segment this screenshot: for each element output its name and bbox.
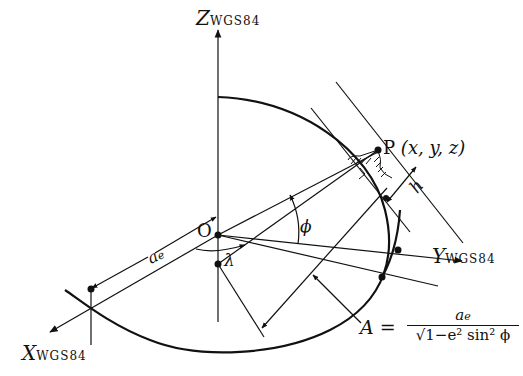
h-arrow-down [387, 190, 397, 202]
tangent-guide [311, 108, 410, 232]
x-axis-label: XWGS84 [22, 343, 87, 363]
point-p-label: P (x, y, z) [383, 139, 465, 157]
longitude-label: λ [224, 252, 235, 269]
meridian-plane-ray [218, 235, 438, 286]
y-axis [218, 235, 462, 261]
formula-denominator: √1−e² sin² ϕ [407, 326, 519, 343]
y-axis-intersection [395, 247, 402, 254]
radius-A-dimension [218, 264, 264, 337]
radius-formula: A = [360, 318, 396, 337]
origin-label: O [197, 222, 212, 240]
latitude-label: ϕ [300, 218, 312, 235]
foot-point [383, 195, 389, 201]
radius-A-arrow [262, 188, 387, 328]
origin-point [215, 232, 222, 239]
formula-numerator: ae [407, 308, 519, 326]
meridian-equator-intersection [379, 274, 386, 281]
x-axis-intersection [88, 286, 95, 293]
normal-z-intersection [215, 261, 222, 268]
latitude-arc [290, 195, 299, 244]
meridian-ellipse [65, 97, 389, 352]
formula-fraction: ae √1−e² sin² ϕ [407, 308, 519, 343]
z-axis-label: ZWGS84 [196, 8, 260, 28]
y-axis-label: YWGS84 [432, 246, 496, 266]
x-axis [50, 235, 218, 332]
ellipsoid-normal [218, 150, 378, 264]
ae-dimension-left [92, 257, 148, 288]
